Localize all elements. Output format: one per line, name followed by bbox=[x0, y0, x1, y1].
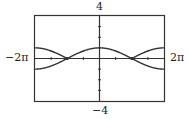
axes bbox=[35, 16, 164, 101]
graph-window bbox=[0, 0, 190, 119]
